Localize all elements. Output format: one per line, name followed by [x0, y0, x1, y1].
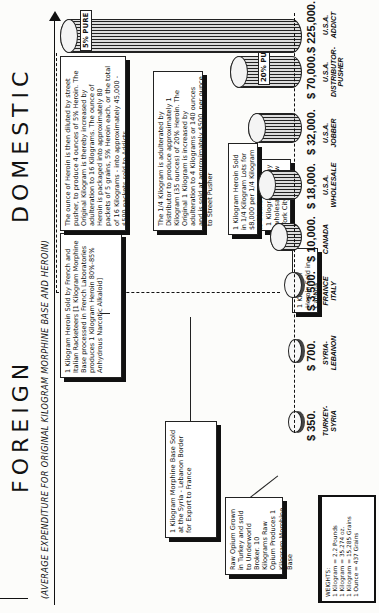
loc-addict: U.S.A. ADDICT	[322, 5, 337, 45]
price-jobber: $ 32,000.	[305, 109, 317, 155]
note-distributor: The 1/4 Kilogram is adulterated by Distr…	[153, 71, 203, 231]
weights-line: 1 Kilogram = 15,285 Grains	[346, 501, 353, 597]
domestic-heading: DOMESTIC	[8, 67, 33, 223]
price-addict: $ 225,000.	[305, 1, 317, 53]
price-canada: $ 10,000.	[305, 216, 317, 262]
weights-line: 1 Kilogram = 35.274 oz.	[339, 501, 346, 597]
weights-line: 1 Kilogram = 2.2 Pounds	[332, 501, 339, 597]
loc-syria: SYRIA- LEBANON	[322, 335, 337, 371]
coin-france	[284, 272, 302, 298]
chart-subtitle: (AVERAGE EXPENDITURE FOR ORIGINAL KILOGR…	[40, 240, 50, 599]
purity-label-5: 5% PURE	[80, 10, 92, 51]
time-axis	[54, 20, 55, 605]
leader-line	[250, 475, 278, 497]
flow-dashed-line	[294, 13, 295, 433]
leader-line	[190, 317, 191, 421]
price-distributor: $ 70,000.	[305, 53, 317, 99]
axis-start-tick	[0, 597, 28, 599]
coin-turkey	[288, 411, 302, 433]
leader-line	[100, 313, 110, 314]
note-jobber: 1 Kilogram Heroin Sold in 1/4 Kilogram L…	[228, 143, 258, 235]
loc-turkey: TURKEY- SYRIA	[322, 403, 337, 439]
loc-jobber: U.S.A. JOBBER	[322, 111, 337, 155]
weights-box: WEIGHTS: 1 Kilogram = 2.2 Pounds 1 Kilog…	[318, 495, 376, 603]
weights-line: 1 Ounce = 437 Grains	[353, 501, 360, 597]
price-wholesale: $ 18,000.	[305, 163, 317, 209]
loc-canada: CANADA	[322, 219, 330, 259]
price-france: $ 3,500.	[305, 271, 317, 311]
loc-distributor: U.S.A. DISTRIBUTOR-PUSHER	[322, 37, 345, 107]
price-turkey: $ 350.	[305, 410, 317, 441]
loc-france: FRANCE ITALY	[322, 271, 337, 311]
domestic-top-line	[56, 53, 57, 293]
note-france-italy: 1 Kilogram Heroin Sold by French and Ita…	[60, 233, 122, 378]
stack-wholesale	[258, 170, 302, 200]
note-turkey: Raw Opium Grown in Turkey and sold to Un…	[225, 497, 283, 575]
loc-wholesale: U.S.A. WHOLESALE	[322, 161, 337, 209]
stack-canada	[270, 223, 302, 251]
stack-addict	[60, 19, 302, 53]
coin-syria	[288, 339, 302, 363]
note-street-pusher: The ounce of Heroin is then diluted by s…	[60, 56, 126, 231]
price-syria: $ 700.	[305, 340, 317, 371]
chart-canvas: FOREIGN DOMESTIC (AVERAGE EXPENDITURE FO…	[0, 0, 379, 613]
axis-arrow-icon	[49, 11, 61, 21]
weights-title: WEIGHTS:	[325, 501, 332, 597]
note-syria-lebanon: 1 Kilogram Morphine Base Sold at the Syr…	[165, 421, 217, 538]
foreign-heading: FOREIGN	[8, 359, 33, 493]
